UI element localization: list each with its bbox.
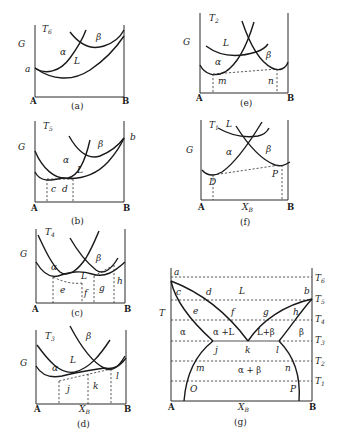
panel-b-B-label: B — [123, 203, 130, 213]
panel-g-beta-region: β — [299, 327, 304, 337]
panel-f-point-D: D — [208, 177, 216, 187]
panel-f-beta-curve — [236, 126, 290, 166]
panel-e-point-n: n — [268, 76, 274, 86]
panel-c-g-label: G — [20, 249, 27, 259]
panel-b-temp-label: T5 — [43, 121, 53, 132]
panel-e-liquid-curve — [206, 44, 268, 56]
panel-f-B-label: B — [287, 202, 294, 212]
panel-g-point-P: P — [289, 384, 297, 394]
panel-a: T6 G a α L β A B (a) — [18, 24, 129, 111]
isotherm-label-T2: T2 — [315, 356, 325, 367]
panel-a-point-a: a — [25, 64, 30, 74]
panel-c-caption: (c) — [71, 308, 83, 318]
panel-b-beta-label: β — [97, 139, 103, 149]
panel-b-liquid-label: L — [76, 165, 83, 175]
panel-d-g-label: G — [20, 358, 27, 368]
isotherm-label-T4: T4 — [315, 314, 325, 325]
panel-b: T5 G β b α L c d A B (b) — [18, 121, 136, 226]
panel-c-B-label: B — [124, 304, 131, 314]
panel-f-beta-label: β — [265, 144, 271, 154]
panel-d-alpha-label: α — [52, 363, 58, 373]
panel-g-point-d: d — [206, 287, 212, 297]
panel-g-alpha-beta-region: α + β — [238, 365, 261, 375]
panel-b-point-c: c — [51, 184, 56, 194]
panel-f-A-label: A — [197, 202, 205, 212]
panel-f-axes — [201, 120, 288, 200]
panel-c-point-h: h — [117, 276, 123, 286]
panel-g-point-e: e — [193, 306, 198, 316]
panel-g-point-l: l — [276, 345, 279, 355]
panel-d-point-j: j — [65, 384, 70, 394]
panel-a-beta-label: β — [95, 32, 101, 42]
panel-d-temp-label: T3 — [45, 331, 55, 342]
panel-g-point-n: n — [285, 363, 291, 373]
panel-e-tangent-line — [213, 69, 277, 74]
panel-d-A-label: A — [33, 404, 41, 414]
panel-b-point-b: b — [130, 132, 136, 142]
panel-c: T4 G β α L h e f g A B (c) — [20, 227, 131, 318]
panel-g-point-g: g — [263, 307, 269, 317]
isotherm-label-T6: T6 — [315, 273, 325, 284]
panel-f: T1 L G α β D P A XB B (f) — [186, 119, 294, 227]
panel-g-alpha-region: α — [180, 327, 186, 337]
panel-c-temp-label: T4 — [45, 227, 55, 238]
panel-g-A-label: A — [167, 402, 175, 412]
panel-d-point-l: l — [116, 371, 119, 381]
panel-d-axes — [36, 330, 126, 404]
panel-d: T3 β G L α l k j A XB B (d) — [20, 326, 131, 429]
panel-c-beta-label: β — [95, 253, 101, 263]
panel-f-temp-label: T1 — [209, 120, 219, 131]
panel-d-caption: (d) — [77, 419, 90, 429]
panel-g-B-label: B — [309, 402, 316, 412]
panel-b-axes — [35, 121, 124, 202]
panel-a-temp-label: T6 — [42, 24, 52, 35]
panel-c-point-f: f — [83, 288, 89, 298]
panel-a-liquid-label: L — [73, 56, 80, 66]
panel-g-t-axis-label: T — [159, 308, 166, 318]
panel-g: T T6 T5 T4 T3 T2 T1 a c d L b e f g h α … — [159, 267, 325, 427]
panel-b-g-label: G — [18, 142, 25, 152]
panel-g-point-b: b — [304, 286, 310, 296]
panel-f-xb-label: XB — [241, 202, 253, 213]
panel-g-point-h: h — [293, 307, 299, 317]
panel-f-caption: (f) — [240, 217, 250, 227]
panel-a-caption: (a) — [71, 101, 83, 111]
panel-e-B-label: B — [287, 93, 294, 103]
panel-d-B-label: B — [124, 404, 131, 414]
panel-a-A-label: A — [29, 96, 37, 106]
panel-g-point-j: j — [213, 345, 218, 355]
panel-e-alpha-label: α — [215, 57, 221, 67]
panel-g-point-a: a — [174, 267, 179, 277]
panel-e-beta-label: β — [265, 50, 271, 60]
panel-e-caption: (e) — [240, 98, 252, 108]
panel-d-liquid-label: L — [69, 355, 76, 365]
panel-a-B-label: B — [122, 96, 129, 106]
panel-g-liquid-beta-region: L+β — [257, 327, 275, 337]
panel-a-g-label: G — [18, 39, 25, 49]
panel-g-point-f: f — [230, 307, 236, 317]
panel-e: T2 G L α β m n A B (e) — [183, 13, 294, 108]
panel-e-temp-label: T2 — [209, 13, 219, 24]
panel-g-caption: (g) — [234, 417, 247, 427]
panel-d-point-k: k — [93, 381, 98, 391]
panel-b-A-label: A — [30, 203, 38, 213]
panel-c-point-g: g — [99, 283, 105, 293]
panel-c-alpha-curve — [38, 231, 99, 274]
panel-g-point-O: O — [190, 384, 198, 394]
panel-g-point-k: k — [245, 345, 250, 355]
panel-b-point-d: d — [62, 184, 68, 194]
isotherm-label-T1: T1 — [315, 376, 325, 387]
panel-e-A-label: A — [195, 93, 203, 103]
panel-f-liquid-curve — [218, 128, 269, 137]
panel-e-liquid-label: L — [222, 38, 229, 48]
panel-c-liquid-label: L — [80, 271, 87, 281]
panel-d-xb-label: XB — [78, 404, 90, 415]
panel-g-liquid-region: L — [238, 286, 245, 296]
panel-f-alpha-label: α — [226, 147, 232, 157]
panel-c-A-label: A — [31, 304, 39, 314]
isotherm-label-T5: T5 — [315, 294, 325, 305]
panel-a-alpha-label: α — [60, 47, 66, 57]
panel-c-alpha-label: α — [51, 262, 57, 272]
panel-b-alpha-label: α — [63, 155, 69, 165]
panel-c-tangent-ef — [53, 277, 82, 283]
